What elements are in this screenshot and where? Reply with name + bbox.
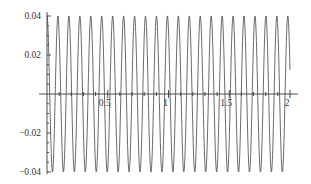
- x-tick-label: 2: [285, 98, 290, 108]
- y-tick-label: −0.04: [19, 167, 41, 177]
- y-tick-label: 0.04: [24, 11, 41, 21]
- oscillation-chart: 0.511.520.040.02−0.02−0.04: [0, 0, 311, 184]
- y-tick-label: 0.02: [24, 50, 41, 60]
- y-tick-label: −0.02: [19, 128, 41, 138]
- x-tick-label: 1: [163, 98, 168, 108]
